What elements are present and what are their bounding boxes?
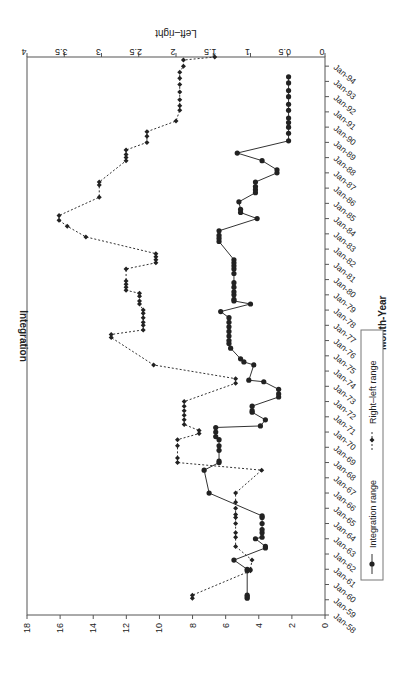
y2-tick-label: 0.5 xyxy=(278,47,291,57)
diamond-marker xyxy=(65,224,70,229)
circle-marker xyxy=(238,207,243,212)
circle-marker xyxy=(251,362,256,367)
circle-marker xyxy=(213,429,218,434)
diamond-marker xyxy=(177,108,182,113)
diamond-marker xyxy=(153,251,158,256)
diamond-marker xyxy=(233,376,238,381)
diamond-marker xyxy=(233,491,238,496)
circle-marker xyxy=(258,423,263,428)
y-tick-label: 12 xyxy=(121,623,131,633)
circle-marker xyxy=(226,329,231,334)
circle-marker xyxy=(250,404,255,409)
diamond-marker xyxy=(124,148,129,153)
circle-marker xyxy=(259,158,264,163)
circle-marker xyxy=(286,102,291,107)
y-tick-label: 0 xyxy=(320,623,330,628)
circle-marker xyxy=(213,425,218,430)
circle-marker xyxy=(261,379,266,384)
diamond-marker xyxy=(144,129,149,134)
rotated-chart: 02468101214161800.511.522.533.54Jan-58Ja… xyxy=(0,0,402,673)
legend-label-integration: Integration range xyxy=(368,480,378,548)
circle-marker xyxy=(216,448,221,453)
y2-axis-label: Left–right xyxy=(155,28,197,39)
diamond-marker xyxy=(177,76,182,81)
diamond-marker xyxy=(137,298,142,303)
diamond-marker xyxy=(175,443,180,448)
circle-marker xyxy=(207,490,212,495)
circle-marker xyxy=(231,280,236,285)
circle-marker xyxy=(235,150,240,155)
diamond-marker xyxy=(177,97,182,102)
diamond-marker xyxy=(144,134,149,139)
diamond-marker xyxy=(141,308,146,313)
diamond-marker xyxy=(249,558,254,563)
y2-tick-label: 3 xyxy=(96,47,101,57)
diamond-marker xyxy=(182,408,187,413)
circle-marker xyxy=(231,257,236,262)
diamond-marker xyxy=(175,437,180,442)
diamond-marker xyxy=(141,327,146,332)
diamond-marker xyxy=(190,593,195,598)
circle-marker xyxy=(286,115,291,120)
diamond-marker xyxy=(181,64,186,69)
diamond-marker xyxy=(177,103,182,108)
circle-marker xyxy=(231,271,236,276)
y-tick-label: 10 xyxy=(154,623,164,633)
circle-marker xyxy=(286,138,291,143)
y-tick-label: 6 xyxy=(221,623,231,628)
circle-marker xyxy=(253,536,258,541)
diamond-marker xyxy=(124,279,129,284)
diamond-marker xyxy=(233,512,238,517)
diamond-marker xyxy=(182,422,187,427)
circle-marker xyxy=(226,338,231,343)
diamond-marker xyxy=(174,119,179,124)
circle-marker xyxy=(286,74,291,79)
circle-marker xyxy=(286,80,291,85)
circle-marker xyxy=(245,593,250,598)
diamond-marker xyxy=(141,320,146,325)
y2-tick-label: 2 xyxy=(170,47,175,57)
diamond-marker xyxy=(109,332,114,337)
diamond-marker xyxy=(124,152,129,157)
circle-marker xyxy=(231,289,236,294)
circle-marker xyxy=(226,320,231,325)
diamond-marker xyxy=(233,381,238,386)
diamond-marker xyxy=(182,399,187,404)
circle-marker xyxy=(263,417,268,422)
circle-marker xyxy=(263,544,268,549)
diamond-marker xyxy=(57,218,62,223)
circle-marker xyxy=(286,131,291,136)
circle-marker xyxy=(286,88,291,93)
circle-marker xyxy=(226,315,231,320)
circle-marker xyxy=(286,94,291,99)
circle-marker xyxy=(226,324,231,329)
y-tick-label: 8 xyxy=(188,623,198,628)
y2-tick-label: 1 xyxy=(245,47,250,57)
circle-marker xyxy=(250,408,255,413)
diamond-marker xyxy=(181,58,186,63)
y-tick-label: 2 xyxy=(287,623,297,628)
circle-marker xyxy=(286,120,291,125)
diamond-marker xyxy=(83,234,88,239)
circle-marker xyxy=(238,356,243,361)
diamond-marker xyxy=(141,315,146,320)
circle-marker xyxy=(216,458,221,463)
circle-marker xyxy=(231,558,236,563)
diamond-marker xyxy=(182,413,187,418)
y-tick-label: 16 xyxy=(55,623,65,633)
diamond-marker xyxy=(177,82,182,87)
y-axis-label: Integration xyxy=(18,310,29,362)
y2-tick-label: 4 xyxy=(21,47,26,57)
circle-marker xyxy=(236,199,241,204)
plot-area: 02468101214161800.511.522.533.54Jan-58Ja… xyxy=(18,28,388,635)
diamond-marker xyxy=(259,468,264,473)
integration-range-line xyxy=(204,77,288,598)
legend-marker-integration xyxy=(369,561,374,566)
circle-marker xyxy=(202,468,207,473)
circle-marker xyxy=(259,527,264,532)
diamond-marker xyxy=(233,535,238,540)
diamond-marker xyxy=(57,213,62,218)
circle-marker xyxy=(231,285,236,290)
diamond-marker xyxy=(175,460,180,465)
diamond-marker xyxy=(233,530,238,535)
